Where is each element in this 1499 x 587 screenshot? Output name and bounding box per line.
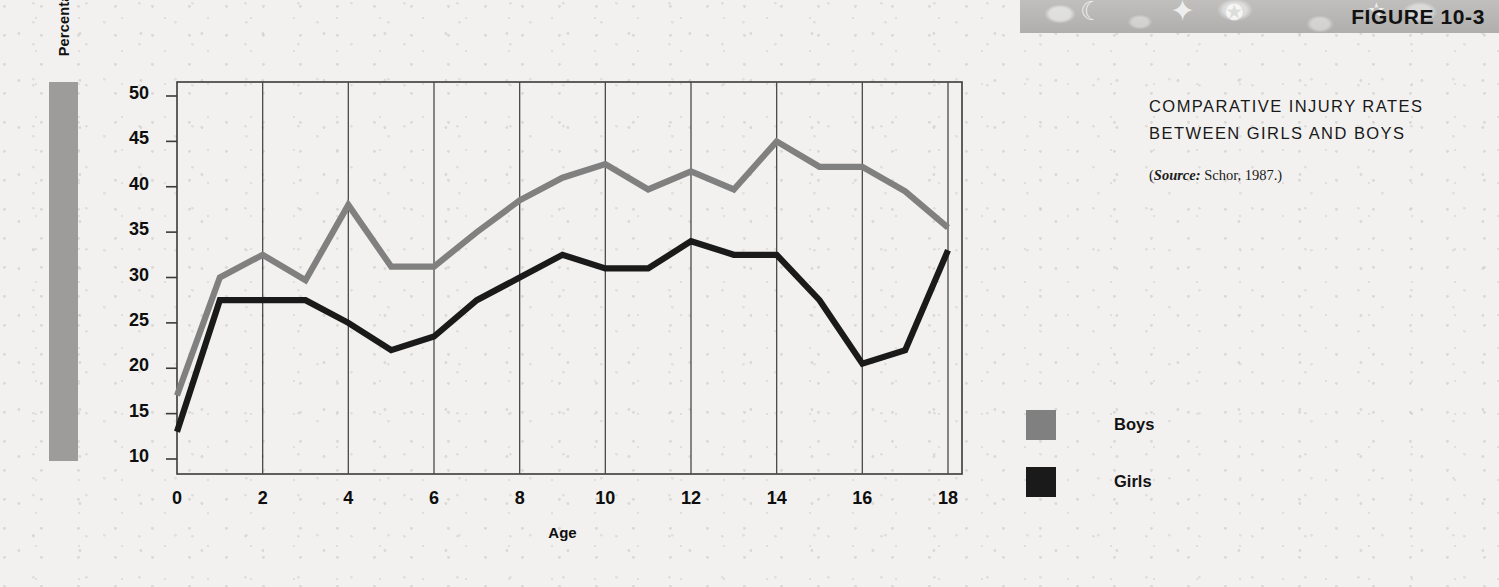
- x-tick-label-16: 16: [842, 488, 882, 509]
- y-tick-label-30: 30: [95, 265, 149, 286]
- x-tick-label-8: 8: [500, 488, 540, 509]
- legend-label-girls: Girls: [1114, 472, 1152, 491]
- x-tick-label-6: 6: [414, 488, 454, 509]
- source-word: Source:: [1154, 167, 1201, 183]
- girls-swatch-icon: [1026, 467, 1056, 497]
- x-tick-label-10: 10: [585, 488, 625, 509]
- figure-source: (Source: Schor, 1987.): [1149, 167, 1489, 184]
- x-tick-label-4: 4: [328, 488, 368, 509]
- x-tick-label-0: 0: [157, 488, 197, 509]
- x-tick-label-12: 12: [671, 488, 711, 509]
- figure-title: COMPARATIVE INJURY RATES BETWEEN GIRLS A…: [1149, 93, 1489, 147]
- y-tick-label-45: 45: [95, 128, 149, 149]
- y-tick-label-15: 15: [95, 401, 149, 422]
- caption-block: COMPARATIVE INJURY RATES BETWEEN GIRLS A…: [1149, 93, 1489, 184]
- figure-title-line-1: COMPARATIVE INJURY RATES: [1149, 93, 1489, 120]
- series-line-boys: [177, 141, 948, 395]
- moon-icon: ☾: [1080, 0, 1103, 24]
- figure-number-label: FIGURE 10-3: [1351, 5, 1485, 29]
- y-tick-label-50: 50: [95, 83, 149, 104]
- legend-label-boys: Boys: [1114, 415, 1154, 434]
- star-icon: ✦: [1170, 0, 1195, 26]
- y-tick-label-10: 10: [95, 446, 149, 467]
- plot-frame: [177, 82, 962, 474]
- source-rest: Schor, 1987.): [1201, 167, 1283, 183]
- chart: Percentage of Patients with Accidents 10…: [0, 0, 1010, 587]
- star-icon: ✪: [1225, 2, 1243, 24]
- x-tick-label-18: 18: [928, 488, 968, 509]
- figure-title-line-2: BETWEEN GIRLS AND BOYS: [1149, 120, 1489, 147]
- legend-item-girls: Girls: [1026, 453, 1154, 510]
- y-tick-label-35: 35: [95, 219, 149, 240]
- chart-legend: Boys Girls: [1026, 396, 1154, 510]
- y-tick-label-40: 40: [95, 174, 149, 195]
- y-tick-label-20: 20: [95, 355, 149, 376]
- boys-swatch-icon: [1026, 410, 1056, 440]
- y-tick-label-25: 25: [95, 310, 149, 331]
- x-tick-label-2: 2: [243, 488, 283, 509]
- legend-item-boys: Boys: [1026, 396, 1154, 453]
- x-axis-label: Age: [548, 524, 576, 541]
- x-tick-label-14: 14: [757, 488, 797, 509]
